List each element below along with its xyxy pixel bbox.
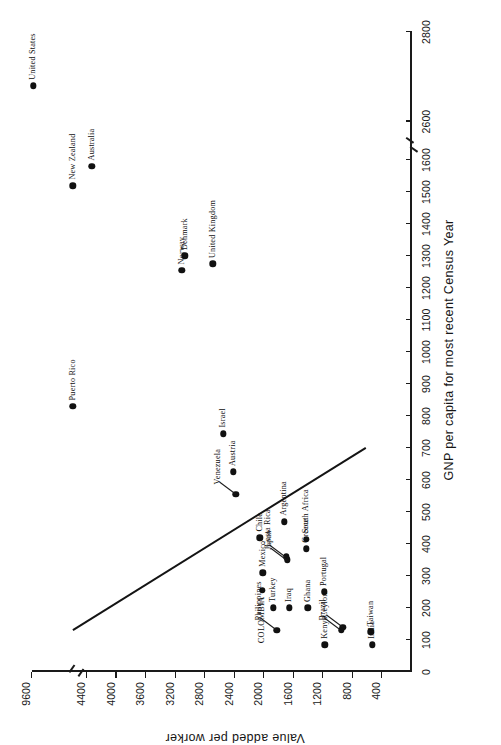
point-label: Australia xyxy=(87,129,96,161)
point-label: Austria xyxy=(228,440,237,466)
x-tick xyxy=(406,191,412,192)
x-tick xyxy=(406,639,412,640)
data-point xyxy=(181,253,188,260)
y-tick-label: 4400 xyxy=(75,682,87,706)
data-point xyxy=(303,536,310,543)
data-point xyxy=(88,163,95,170)
point-label: Venezuela xyxy=(213,449,222,484)
x-tick xyxy=(406,159,412,160)
y-tick-label: 2000 xyxy=(252,682,264,706)
y-tick-label: 800 xyxy=(341,682,353,700)
rotated-figure: 0100200300400500600700800900100011001200… xyxy=(0,0,470,700)
x-tick xyxy=(406,511,412,512)
x-tick xyxy=(406,415,412,416)
y-tick-label: 400 xyxy=(370,682,382,700)
x-tick-label: 1400 xyxy=(420,212,432,236)
x-tick-label: 500 xyxy=(420,503,432,521)
x-axis-line xyxy=(410,32,412,672)
y-tick-label: 3200 xyxy=(164,682,176,706)
y-tick xyxy=(234,672,235,678)
x-tick xyxy=(406,351,412,352)
x-tick xyxy=(406,479,412,480)
x-tick xyxy=(406,575,412,576)
x-axis-title: GNP per capita for most recent Census Ye… xyxy=(442,219,456,480)
x-tick xyxy=(406,255,412,256)
y-tick-label: 4000 xyxy=(105,682,117,706)
y-tick-label: 2400 xyxy=(223,682,235,706)
point-label: Israel xyxy=(218,408,227,427)
y-tick xyxy=(175,672,176,678)
point-label: Portugal xyxy=(319,557,328,586)
x-tick-label: 1500 xyxy=(420,180,432,204)
data-point xyxy=(369,642,376,649)
x-tick-label: 700 xyxy=(420,439,432,457)
x-tick-label: 300 xyxy=(420,567,432,585)
data-point xyxy=(69,403,76,410)
y-tick xyxy=(145,672,146,678)
point-label: India xyxy=(367,621,376,639)
point-label: New Zealand xyxy=(68,134,77,180)
point-label: Puerto Rico xyxy=(68,359,77,400)
y-tick xyxy=(263,672,264,678)
point-label: United Kingdom xyxy=(208,200,217,258)
x-tick xyxy=(406,319,412,320)
data-point xyxy=(305,605,312,612)
data-point xyxy=(322,642,329,649)
x-tick-label: 600 xyxy=(420,471,432,489)
y-tick-label: 9600 xyxy=(20,682,32,706)
point-label: United States xyxy=(28,33,37,80)
x-tick-label: 2800 xyxy=(420,20,432,44)
data-point xyxy=(281,518,288,525)
x-tick-label: 1200 xyxy=(420,276,432,300)
data-point xyxy=(260,570,267,577)
y-tick xyxy=(381,672,382,678)
x-tick xyxy=(406,671,412,672)
data-point xyxy=(303,546,310,553)
data-point xyxy=(230,469,237,476)
y-tick-label: 1600 xyxy=(282,682,294,706)
x-axis-break-mark xyxy=(405,137,413,143)
x-tick xyxy=(406,120,412,121)
point-label: Turkey xyxy=(268,577,277,602)
point-label: Philippines xyxy=(254,581,263,620)
y-tick-label: 3600 xyxy=(134,682,146,706)
y-tick xyxy=(86,672,87,678)
x-tick xyxy=(406,31,412,32)
y-tick-label: 1200 xyxy=(311,682,323,706)
point-label: Iraq xyxy=(284,588,293,602)
data-point xyxy=(286,605,293,612)
data-point xyxy=(69,182,76,189)
point-label: Argentina xyxy=(279,481,288,515)
point-label: South Africa xyxy=(301,489,310,533)
point-label: Denmark xyxy=(180,218,189,250)
y-axis-line xyxy=(32,670,412,672)
data-point xyxy=(209,261,216,268)
y-tick-label: 2800 xyxy=(193,682,205,706)
point-label: Ceylon xyxy=(320,592,329,617)
x-tick-label: 200 xyxy=(420,599,432,617)
x-tick xyxy=(406,223,412,224)
x-tick-label: 1300 xyxy=(420,244,432,268)
point-label: Japan xyxy=(264,530,273,550)
y-tick xyxy=(322,672,323,678)
x-tick xyxy=(406,447,412,448)
y-axis-title: Value added per worker xyxy=(165,731,305,745)
x-tick-label: 0 xyxy=(420,669,432,675)
data-point xyxy=(270,605,277,612)
point-label: Ghana xyxy=(303,580,312,602)
x-tick xyxy=(406,607,412,608)
x-tick-label: 1000 xyxy=(420,340,432,364)
x-tick-label: 900 xyxy=(420,375,432,393)
x-tick-label: 400 xyxy=(420,535,432,553)
y-tick xyxy=(293,672,294,678)
x-tick-label: 2600 xyxy=(420,110,432,134)
data-point xyxy=(30,82,37,89)
scatter-plot: 0100200300400500600700800900100011001200… xyxy=(0,0,470,700)
data-point xyxy=(220,430,227,437)
x-tick xyxy=(406,543,412,544)
x-tick xyxy=(406,287,412,288)
y-tick xyxy=(115,672,116,678)
data-point xyxy=(178,267,185,274)
x-tick-label: 1600 xyxy=(420,148,432,172)
label-leader-line xyxy=(219,482,236,495)
